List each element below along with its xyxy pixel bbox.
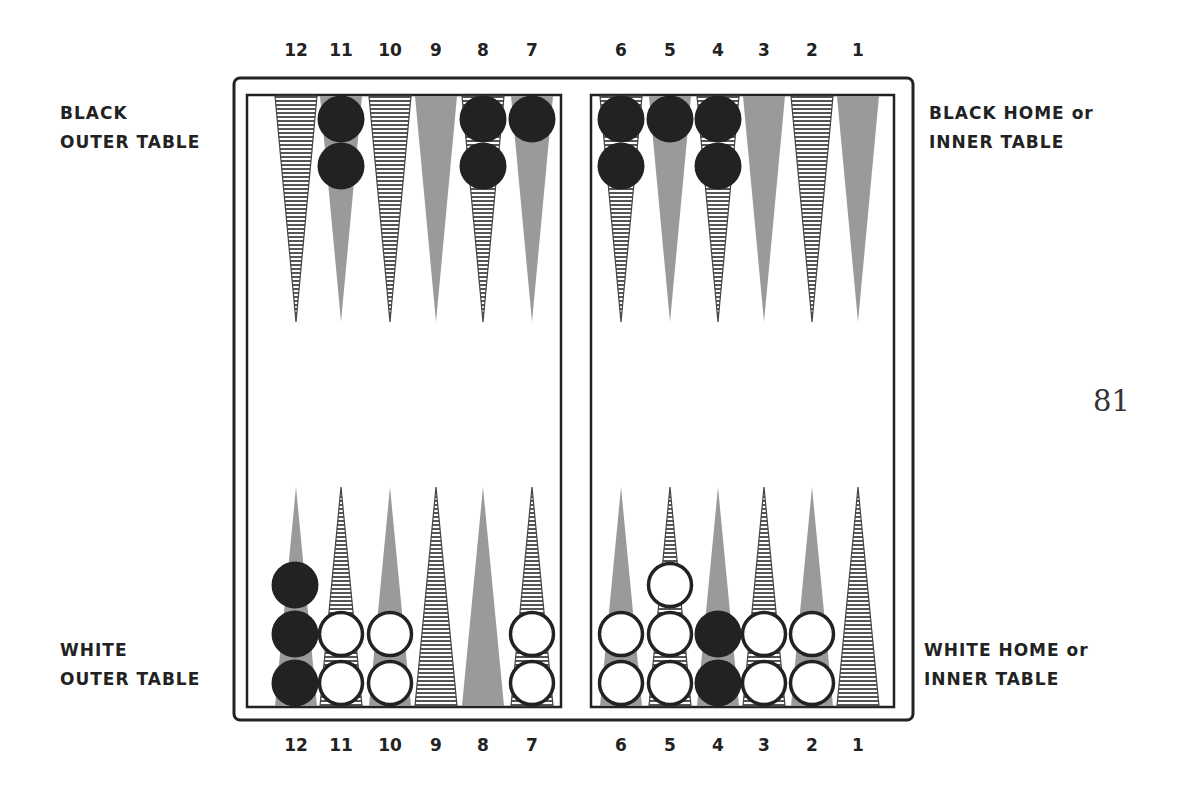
backgammon-diagram: BLACK OUTER TABLE BLACK HOME or INNER TA… [0, 0, 1192, 792]
point-top-9 [415, 96, 457, 322]
black-checker[interactable] [598, 143, 645, 190]
white-checker[interactable] [369, 613, 412, 656]
checkers-layer [272, 96, 834, 707]
black-checker[interactable] [318, 143, 365, 190]
point-top-12 [275, 96, 317, 322]
white-checker[interactable] [369, 662, 412, 705]
point-bottom-1 [837, 487, 879, 706]
black-checker[interactable] [647, 96, 694, 143]
black-checker[interactable] [695, 611, 742, 658]
point-bottom-8 [462, 487, 504, 706]
white-checker[interactable] [743, 662, 786, 705]
point-top-10 [369, 96, 411, 322]
black-checker[interactable] [460, 96, 507, 143]
white-checker[interactable] [743, 613, 786, 656]
points-layer [275, 96, 879, 706]
black-checker[interactable] [695, 96, 742, 143]
black-checker[interactable] [318, 96, 365, 143]
white-checker[interactable] [600, 613, 643, 656]
white-checker[interactable] [649, 662, 692, 705]
white-checker[interactable] [791, 662, 834, 705]
point-bottom-9 [415, 487, 457, 706]
black-checker[interactable] [509, 96, 556, 143]
point-top-3 [743, 96, 785, 322]
black-checker[interactable] [272, 660, 319, 707]
board [0, 0, 1192, 792]
black-checker[interactable] [460, 143, 507, 190]
black-checker[interactable] [695, 143, 742, 190]
white-checker[interactable] [320, 613, 363, 656]
black-checker[interactable] [695, 660, 742, 707]
white-checker[interactable] [600, 662, 643, 705]
black-checker[interactable] [272, 562, 319, 609]
black-checker[interactable] [598, 96, 645, 143]
white-checker[interactable] [511, 662, 554, 705]
white-checker[interactable] [649, 564, 692, 607]
white-checker[interactable] [791, 613, 834, 656]
point-top-2 [791, 96, 833, 322]
white-checker[interactable] [511, 613, 554, 656]
white-checker[interactable] [320, 662, 363, 705]
point-top-1 [837, 96, 879, 322]
black-checker[interactable] [272, 611, 319, 658]
white-checker[interactable] [649, 613, 692, 656]
